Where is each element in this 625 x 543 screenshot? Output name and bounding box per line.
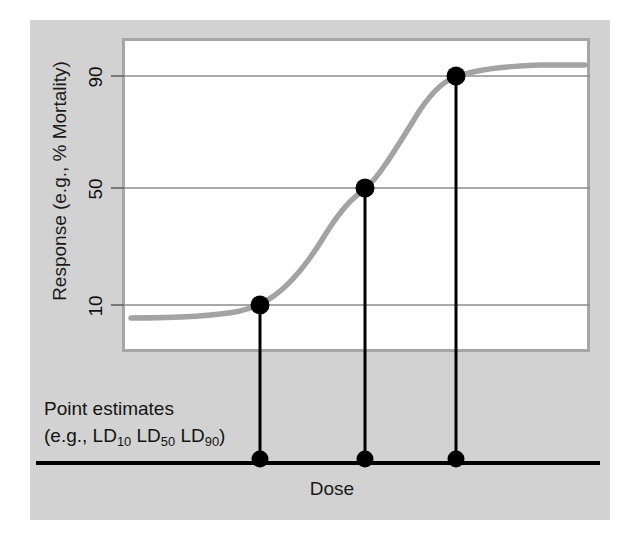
plot-area bbox=[122, 38, 590, 352]
y-tick-label-10: 10 bbox=[85, 286, 107, 326]
y-tick-label-50: 50 bbox=[85, 169, 107, 209]
ld50-subscript: 50 bbox=[161, 434, 175, 449]
y-axis-title: Response (e.g., % Mortality) bbox=[49, 31, 71, 331]
x-axis-title: Dose bbox=[262, 478, 402, 500]
examples-open-paren: (e.g., bbox=[44, 425, 93, 446]
point-estimates-title: Point estimates bbox=[44, 396, 225, 423]
y-tick-label-90: 90 bbox=[85, 57, 107, 97]
ld10-label: LD10 bbox=[93, 425, 132, 446]
ld50-label: LD50 bbox=[137, 425, 176, 446]
examples-close-paren: ) bbox=[219, 425, 225, 446]
ld90-subscript: 90 bbox=[205, 434, 219, 449]
point-estimates-annotation: Point estimates (e.g., LD10 LD50 LD90) bbox=[44, 396, 225, 451]
ld90-label: LD90 bbox=[180, 425, 219, 446]
figure-root: Response (e.g., % Mortality) 90 50 10 Po… bbox=[0, 0, 625, 543]
point-estimates-examples: (e.g., LD10 LD50 LD90) bbox=[44, 423, 225, 451]
ld10-subscript: 10 bbox=[117, 434, 131, 449]
